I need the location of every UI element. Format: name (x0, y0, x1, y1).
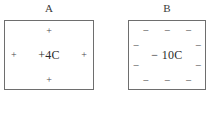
charge-minus-bottom-right: − (185, 75, 191, 85)
charge-plus-top: + (46, 26, 52, 36)
charge-box-b: − − − − − − − − − − − 10C (128, 20, 206, 90)
charge-minus-top-left: − (143, 25, 149, 35)
charge-minus-top-center: − (164, 25, 170, 35)
charge-minus-bottom-left: − (143, 75, 149, 85)
charge-minus-top-right: − (185, 25, 191, 35)
charge-plus-bottom: + (46, 75, 52, 85)
charge-box-a: + + + + +4C (4, 20, 94, 90)
charge-box-group-b: B − − − − − − − − − − − 10C (128, 0, 206, 113)
box-label-b: B (128, 2, 206, 15)
charge-minus-left-lower: − (133, 60, 139, 70)
charge-plus-right: + (81, 50, 87, 60)
charge-minus-right-upper: − (195, 40, 201, 50)
charge-minus-right-lower: − (195, 60, 201, 70)
box-b-center-value: − 10C (151, 48, 182, 62)
charged-boxes-figure: A + + + + +4C B − − − − − − − − − − − 10… (0, 0, 215, 113)
charge-plus-left: + (11, 50, 17, 60)
charge-box-group-a: A + + + + +4C (4, 0, 94, 113)
box-a-center-value: +4C (38, 48, 60, 62)
charge-minus-left-upper: − (133, 40, 139, 50)
charge-minus-bottom-center: − (164, 75, 170, 85)
box-label-a: A (4, 2, 94, 15)
